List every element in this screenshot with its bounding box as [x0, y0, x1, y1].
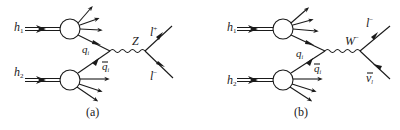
- boson-label: Z: [132, 34, 139, 48]
- feynman-diagrams: h1 h2 qi qi Z l+ l− (a): [0, 0, 400, 130]
- hadron1-label: h1: [14, 20, 24, 35]
- hadron2-line: [25, 76, 60, 84]
- hadron1-blob: [273, 19, 293, 39]
- hadron1-label: h1: [227, 20, 237, 35]
- antiquark-label: qi: [102, 60, 110, 73]
- hadron2-label: h2: [227, 73, 237, 88]
- hadron1-line: [25, 25, 60, 33]
- caption-a: (a): [86, 105, 99, 119]
- diagram-b: h1 h2 qi qi W− l− νl (b): [227, 9, 390, 119]
- svg-text:qi: qi: [102, 60, 110, 73]
- lepton-bottom-label: νl: [366, 71, 373, 85]
- svg-text:qi: qi: [314, 62, 322, 75]
- hadron1-remnants: [78, 8, 100, 30]
- lepton-bottom-label: l−: [150, 69, 157, 83]
- arrow-icon: [36, 25, 46, 33]
- hadron1-blob: [60, 19, 80, 39]
- quark-label: qi: [82, 43, 90, 56]
- boson-propagator: [325, 50, 360, 53]
- arrow-icon: [92, 40, 101, 45]
- caption-b: (b): [294, 105, 308, 119]
- arrow-icon: [36, 76, 46, 84]
- boson-label: W−: [345, 34, 359, 48]
- diagram-a: h1 h2 qi qi Z l+ l− (a): [14, 8, 173, 119]
- lepton-top-label: l−: [366, 16, 373, 30]
- arrow-icon: [248, 76, 258, 84]
- arrow-icon: [373, 64, 382, 70]
- arrow-icon: [248, 25, 258, 33]
- hadron2-remnants: [290, 79, 320, 100]
- antiquark-label: qi: [314, 62, 322, 75]
- hadron1-remnants: [291, 9, 316, 31]
- lepton-top-line: [360, 26, 390, 51]
- hadron2-label: h2: [14, 65, 24, 80]
- boson-propagator: [110, 50, 145, 53]
- hadron2-remnants: [77, 79, 107, 100]
- quark-label: qi: [296, 47, 304, 60]
- hadron1-line: [237, 25, 273, 33]
- hadron2-line: [237, 76, 273, 84]
- arrow-icon: [305, 40, 314, 45]
- arrow-icon: [371, 32, 378, 40]
